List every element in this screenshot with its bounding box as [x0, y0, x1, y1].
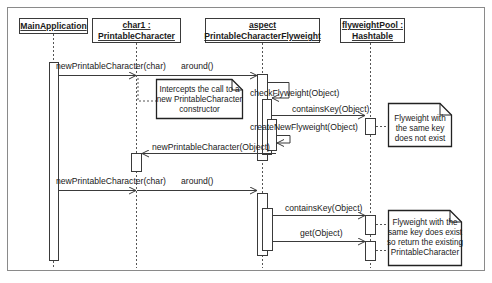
- svg-text:Intercepts the call to a: Intercepts the call to a: [159, 85, 240, 94]
- activation-pool-3: [366, 242, 376, 261]
- activation-pool-2: [366, 216, 376, 235]
- svg-text:so return the existing: so return the existing: [387, 238, 463, 247]
- message-label: checkFlyweight(Object): [250, 88, 339, 98]
- participant-label-line2: Hashtable: [352, 31, 393, 41]
- note-intercepts: Intercepts the call to a new PrintableCh…: [157, 80, 243, 119]
- participant-label-line2: PrintableCharacter: [98, 31, 176, 41]
- message-label: newPrintableCharacter(Object): [152, 142, 270, 152]
- message-label: containsKey(Object): [285, 203, 363, 213]
- activation-main: [50, 63, 59, 261]
- svg-text:the same key: the same key: [396, 124, 446, 133]
- svg-text:PrintableCharacter: PrintableCharacter: [391, 248, 460, 257]
- activation-char1: [132, 154, 142, 172]
- message-label: newPrintableCharacter(char): [56, 176, 166, 186]
- svg-text:Flyweight with the: Flyweight with the: [392, 218, 458, 227]
- activation-aspect-2-inner: [263, 209, 273, 251]
- svg-text:does not exist: does not exist: [395, 134, 446, 143]
- participant-label-line1: aspect: [249, 20, 276, 30]
- svg-text:Flyweight with: Flyweight with: [394, 114, 446, 123]
- participant-label: MainApplication: [20, 21, 86, 31]
- participant-label-line2: PrintableCharacterFlyweight: [204, 31, 321, 41]
- participant-main-application: MainApplication: [20, 19, 88, 34]
- participant-aspect: aspect PrintableCharacterFlyweight: [204, 19, 321, 43]
- message-label: createNewFlyweight(Object): [250, 122, 358, 132]
- svg-text:constructor: constructor: [179, 105, 220, 114]
- message-label: around(): [181, 176, 214, 186]
- sequence-diagram: MainApplication char1 : PrintableCharact…: [0, 0, 492, 283]
- participant-label-line1: char1 :: [122, 20, 150, 30]
- note-flyweight-not-exist: Flyweight with the same key does not exi…: [389, 104, 452, 147]
- message-label: around(): [181, 61, 214, 71]
- participant-char1: char1 : PrintableCharacter: [93, 19, 181, 43]
- message-label: newPrintableCharacter(char): [56, 61, 166, 71]
- svg-text:new PrintableCharacter: new PrintableCharacter: [157, 95, 243, 104]
- svg-text:same key does exist: same key does exist: [388, 228, 463, 237]
- message-label: containsKey(Object): [292, 104, 370, 114]
- note-flyweight-exists: Flyweight with the same key does exist s…: [387, 211, 463, 266]
- participant-label-line1: flyweightPool :: [342, 20, 403, 30]
- message-label: get(Object): [300, 228, 343, 238]
- participant-flyweight-pool: flyweightPool : Hashtable: [341, 19, 405, 43]
- activation-pool-1: [366, 119, 376, 135]
